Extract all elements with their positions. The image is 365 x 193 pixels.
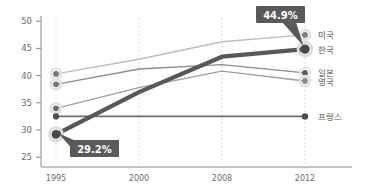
line-chart: 50 45 40 35 30 25 1995 2000 2008 2012 — [0, 0, 365, 193]
marker-korea-1995 — [52, 130, 61, 139]
marker-uk-1995 — [53, 105, 59, 111]
series-label-uk: 영국 — [318, 77, 334, 87]
marker-usa-2012 — [302, 32, 308, 38]
x-tick-label-2012: 2012 — [295, 174, 315, 183]
y-tick-label-25: 25 — [21, 152, 32, 162]
marker-usa-1995 — [53, 71, 59, 77]
marker-japan-1995 — [53, 81, 59, 87]
series-lines — [56, 35, 305, 134]
korea-1995-callout-text: 29.2% — [77, 144, 112, 155]
y-tick-label-40: 40 — [21, 71, 32, 81]
chart-canvas: 50 45 40 35 30 25 1995 2000 2008 2012 — [0, 0, 365, 193]
korea-1995-callout: 29.2% — [58, 133, 119, 157]
marker-korea-2012 — [300, 44, 309, 53]
y-tick-label-50: 50 — [21, 16, 32, 26]
y-tick-label-45: 45 — [21, 43, 32, 53]
series-label-usa: 미국 — [318, 30, 334, 40]
markers-1995 — [49, 69, 62, 141]
x-tick-label-2008: 2008 — [212, 174, 232, 183]
y-tick-label-30: 30 — [21, 125, 32, 135]
series-line-korea — [56, 49, 305, 134]
x-tick-label-1995: 1995 — [46, 174, 66, 183]
marker-uk-2012 — [302, 78, 308, 84]
y-tick-marks — [36, 21, 41, 157]
marker-france-1995 — [53, 113, 59, 119]
y-tick-label-35: 35 — [21, 98, 32, 108]
series-label-korea: 한국 — [318, 45, 334, 55]
marker-france-2012 — [302, 113, 308, 119]
series-label-france: 프랑스 — [318, 112, 342, 122]
series-labels: 미국 한국 일본 영국 프랑스 — [318, 30, 342, 122]
korea-2012-callout-text: 44.9% — [263, 10, 298, 21]
x-tick-label-2000: 2000 — [129, 174, 149, 183]
x-tick-labels: 1995 2000 2008 2012 — [46, 174, 315, 183]
korea-2012-callout: 44.9% — [256, 6, 305, 46]
y-tick-labels: 50 45 40 35 30 25 — [21, 16, 32, 162]
